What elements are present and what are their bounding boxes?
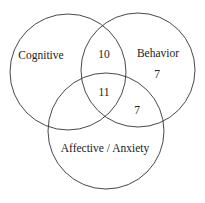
cognitive-circle [10,14,126,130]
venn-circles [0,0,205,203]
all-three-count: 11 [98,87,109,99]
behavior-label: Behavior [137,48,179,60]
venn-diagram: Cognitive Behavior Affective / Anxiety 1… [0,0,205,203]
cognitive-label: Cognitive [18,50,63,62]
cognitive-behavior-count: 10 [98,49,110,61]
behavior-only-count: 7 [154,69,160,81]
behavior-affective-count: 7 [134,105,140,117]
affective-label: Affective / Anxiety [61,143,150,155]
